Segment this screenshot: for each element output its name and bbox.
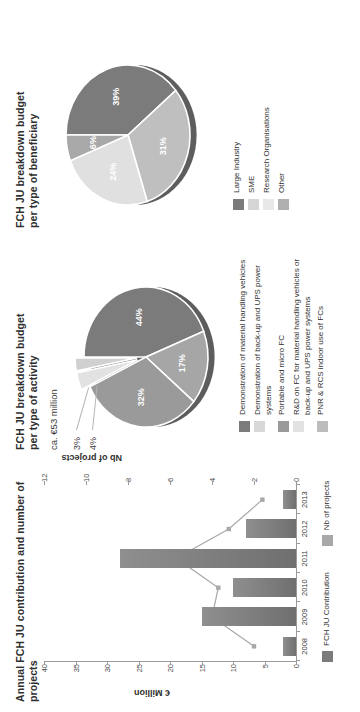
x-category-label: 2012: [300, 521, 309, 538]
legend-swatch: [239, 421, 250, 432]
legend-item: Portable and micro FC: [277, 240, 289, 432]
legend-swatch: [278, 199, 289, 210]
x-category-label: 2013: [300, 491, 309, 508]
y-axis-left-label: € Million: [134, 688, 170, 698]
bar: [246, 520, 296, 539]
legend-swatch-projects: [322, 535, 333, 546]
y-tick-mark-left: [233, 661, 234, 665]
legend-swatch: [293, 421, 304, 432]
bar: [202, 608, 297, 627]
legend-label: Other: [277, 173, 289, 193]
x-tick-mark: [296, 601, 300, 602]
activity-pie-graphic: 44%17%32%: [74, 282, 224, 432]
y-tick-left: 35: [71, 664, 80, 672]
x-tick-mark: [296, 513, 300, 514]
beneficiary-pie-legend: Large IndustrySMEResearch OrganisationsO…: [232, 30, 292, 210]
activity-pie-chart: FCH JU breakdown budget per type of acti…: [0, 234, 360, 454]
legend-item-contribution: FCH JU Contribution: [322, 572, 333, 662]
x-category-label: 2008: [300, 638, 309, 655]
legend-swatch: [278, 421, 289, 432]
bar: [283, 637, 296, 656]
x-tick-mark: [296, 484, 300, 485]
legend-swatch: [263, 199, 274, 210]
annual-contribution-chart: Annual FCH JU contribution and number of…: [0, 456, 360, 706]
legend-swatch: [254, 421, 265, 432]
x-tick-mark: [296, 660, 300, 661]
y-tick-mark-left: [265, 661, 266, 665]
y-tick-mark-right: [254, 481, 255, 485]
x-category-label: 2011: [300, 550, 309, 566]
legend-label-projects: Nb of projects: [322, 481, 333, 530]
pie-slice-label: 17%: [177, 354, 187, 372]
bar-chart-legend: FCH JU Contribution Nb of projects: [322, 481, 333, 662]
legend-item: Demonstration of material handling vehic…: [238, 240, 250, 432]
legend-item: PNR & RCS indoor use of FCs: [316, 240, 328, 432]
legend-label: R&D on FC for material handling vehicles…: [292, 240, 313, 415]
pie-slice-label: 24%: [108, 163, 118, 181]
beneficiary-pie-chart: FCH JU breakdown budget per type of bene…: [0, 6, 360, 232]
pie-slice-label: 31%: [158, 137, 168, 155]
activity-pie-legend: Demonstration of material handling vehic…: [238, 240, 331, 432]
y-tick-mark-left: [296, 661, 297, 665]
y-tick-left: 10: [229, 664, 238, 672]
y-tick-mark-right: [170, 481, 171, 485]
beneficiary-pie-graphic: 39%31%24%6%: [56, 60, 212, 210]
legend-item: R&D on FC for material handling vehicles…: [292, 240, 313, 432]
legend-item: Other: [277, 30, 289, 210]
legend-label-contribution: FCH JU Contribution: [322, 572, 333, 646]
activity-pie-title: FCH JU breakdown budget per type of acti…: [14, 300, 40, 450]
activity-leader-label-3: 3%: [72, 437, 82, 450]
projects-line-series: [44, 485, 296, 661]
bar: [283, 490, 296, 509]
beneficiary-pie-title: FCH JU breakdown budget per type of bene…: [14, 78, 40, 228]
legend-label: PNR & RCS indoor use of FCs: [316, 306, 328, 415]
pie-slice-label: 6%: [88, 136, 98, 149]
y-tick-left: 40: [40, 664, 49, 672]
legend-item-projects: Nb of projects: [322, 481, 333, 546]
legend-swatch: [248, 199, 259, 210]
legend-item: Research Organisations: [262, 30, 274, 210]
x-tick-mark: [296, 572, 300, 573]
y-axis-right-label: Nb of projects: [61, 453, 122, 463]
pie-slice-label: 39%: [111, 88, 121, 106]
legend-label: Portable and micro FC: [277, 335, 289, 415]
legend-label: Research Organisations: [262, 107, 274, 193]
bar: [120, 549, 296, 568]
y-tick-left: 20: [166, 664, 175, 672]
y-tick-mark-right: [44, 481, 45, 485]
x-tick-mark: [296, 543, 300, 544]
y-tick-mark-left: [76, 661, 77, 665]
legend-swatch-contribution: [322, 651, 333, 662]
x-tick-mark: [296, 631, 300, 632]
x-category-label: 2010: [300, 579, 309, 596]
legend-label: Demonstration of material handling vehic…: [238, 260, 250, 415]
y-tick-mark-left: [44, 661, 45, 665]
legend-item: Large Industry: [232, 30, 244, 210]
y-tick-left: 25: [134, 664, 143, 672]
x-category-label: 2009: [300, 609, 309, 626]
legend-label: Large Industry: [232, 142, 244, 193]
bar-chart-title: Annual FCH JU contribution and number of…: [14, 458, 40, 702]
y-tick-mark-left: [202, 661, 203, 665]
y-tick-mark-left: [139, 661, 140, 665]
y-tick-mark-right: [86, 481, 87, 485]
bar-plot-area: 0510152025303540024681012200820092010201…: [44, 485, 297, 662]
rotated-page: Annual FCH JU contribution and number of…: [0, 0, 360, 712]
y-tick-left: 30: [103, 664, 112, 672]
y-tick-mark-left: [107, 661, 108, 665]
y-tick-left: 15: [197, 664, 206, 672]
bar: [233, 578, 296, 597]
legend-item: Demonstration of back-up and UPS power s…: [253, 240, 274, 432]
activity-pie-note: ca. €53 million: [48, 389, 59, 450]
y-tick-mark-left: [170, 661, 171, 665]
legend-swatch: [317, 421, 328, 432]
legend-item: SME: [247, 30, 259, 210]
y-tick-mark-right: [128, 481, 129, 485]
pie-slice-label: 32%: [136, 388, 146, 406]
pie-slice-label: 44%: [134, 308, 144, 326]
legend-label: SME: [247, 176, 259, 193]
activity-leader-label-4: 4%: [88, 437, 98, 450]
legend-label: Demonstration of back-up and UPS power s…: [253, 240, 274, 415]
y-tick-mark-right: [212, 481, 213, 485]
legend-swatch: [233, 199, 244, 210]
